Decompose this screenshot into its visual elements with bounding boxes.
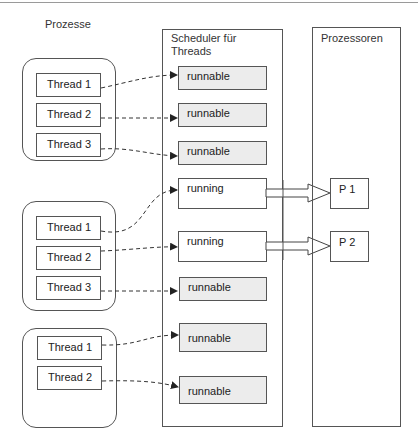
state-runnable-4: runnable — [179, 277, 267, 301]
processors-title: Prozessoren — [321, 32, 383, 45]
process-3-thread-2: Thread 2 — [37, 366, 102, 390]
processor-column — [312, 27, 401, 427]
state-running-2: running — [178, 231, 267, 262]
processor-p1: P 1 — [330, 178, 369, 209]
state-runnable-3: runnable — [178, 141, 267, 165]
process-2-thread-2: Thread 2 — [36, 246, 101, 270]
scheduler-title: Scheduler für Threads — [171, 32, 236, 58]
process-1-thread-1: Thread 1 — [36, 73, 101, 97]
process-3-thread-1: Thread 1 — [37, 336, 102, 360]
processor-p2: P 2 — [330, 231, 369, 262]
state-runnable-2: runnable — [178, 103, 267, 127]
process-1-thread-2: Thread 2 — [36, 103, 101, 127]
state-runnable-1: runnable — [178, 66, 267, 90]
process-2-thread-1: Thread 1 — [36, 216, 101, 240]
process-1-thread-3: Thread 3 — [36, 133, 101, 157]
state-running-1: running — [178, 178, 267, 209]
state-runnable-6: runnable — [179, 376, 267, 404]
state-runnable-5: runnable — [179, 323, 267, 352]
scheduler-title-line-2: Threads — [171, 45, 236, 58]
scheduler-title-line-1: Scheduler für — [171, 32, 236, 45]
process-2-thread-3: Thread 3 — [36, 276, 101, 300]
top-divider — [0, 2, 418, 3]
processes-heading: Prozesse — [45, 18, 91, 30]
